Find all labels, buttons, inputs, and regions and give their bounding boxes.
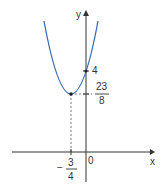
y-intercept-point xyxy=(84,69,87,72)
y-axis-arrow-icon xyxy=(83,10,89,16)
y-axis-label: y xyxy=(76,9,81,20)
y-intercept-label: 4 xyxy=(92,65,98,76)
x-axis-label: x xyxy=(150,156,155,167)
vertex-x-numerator: 3 xyxy=(68,157,74,168)
x-axis-arrow-icon xyxy=(150,149,155,155)
vertex-x-sign: − xyxy=(57,162,63,173)
vertex-y-numerator: 23 xyxy=(96,81,108,92)
origin-label: 0 xyxy=(88,155,94,166)
vertex-x-denominator: 4 xyxy=(68,171,74,182)
parabola-graph: y x 0 4 23 8 − 3 4 xyxy=(0,0,164,191)
parabola-curve xyxy=(44,21,98,94)
vertex-point xyxy=(69,92,73,96)
vertex-y-denominator: 8 xyxy=(99,95,105,106)
